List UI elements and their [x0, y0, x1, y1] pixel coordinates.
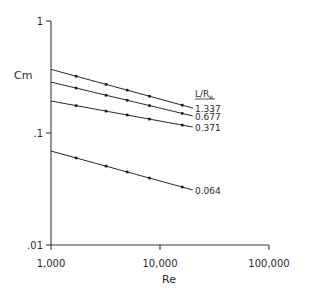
- chart-svg: 1.1.011,00010,000100,000 1.3370.6770.371…: [0, 0, 309, 297]
- data-point-marker: [148, 177, 151, 180]
- data-point-marker: [148, 118, 151, 121]
- data-point-marker: [181, 124, 184, 127]
- data-point-marker: [75, 87, 78, 90]
- x-tick-label: 100,000: [248, 258, 289, 269]
- series-line: [51, 101, 193, 127]
- y-tick-label: 1: [37, 16, 43, 27]
- chart-container: 1.1.011,00010,000100,000 1.3370.6770.371…: [0, 0, 309, 297]
- data-point-marker: [126, 171, 129, 174]
- data-point-marker: [75, 104, 78, 107]
- series-label: 0.371: [195, 123, 221, 133]
- y-axis-label: Cm: [14, 69, 32, 82]
- data-point-marker: [75, 157, 78, 160]
- data-point-marker: [105, 83, 108, 86]
- x-tick-label: 1,000: [37, 258, 66, 269]
- data-point-marker: [126, 114, 129, 117]
- data-point-marker: [181, 112, 184, 115]
- series-label: 0.677: [195, 112, 221, 122]
- data-point-marker: [105, 110, 108, 113]
- axes: 1.1.011,00010,000100,000: [27, 16, 290, 269]
- y-tick-label: .01: [27, 240, 43, 251]
- legend-title-text: L/Re: [195, 89, 213, 100]
- data-point-marker: [148, 104, 151, 107]
- series-line: [51, 151, 193, 190]
- data-point-marker: [126, 99, 129, 102]
- x-tick-label: 10,000: [143, 258, 178, 269]
- data-point-marker: [181, 186, 184, 189]
- series-label: 0.064: [195, 186, 221, 196]
- series-0.064: 0.064: [51, 151, 221, 196]
- data-point-marker: [126, 89, 129, 92]
- series-line: [51, 82, 193, 116]
- labels-group: Cm Re L/Re: [14, 69, 215, 286]
- data-point-marker: [75, 75, 78, 78]
- x-axis-label: Re: [162, 273, 176, 286]
- data-point-marker: [181, 104, 184, 107]
- series-line: [51, 69, 193, 108]
- legend-title: L/Re: [195, 89, 215, 100]
- data-point-marker: [148, 95, 151, 98]
- data-point-marker: [105, 94, 108, 97]
- y-tick-label: .1: [33, 128, 43, 139]
- data-point-marker: [105, 165, 108, 168]
